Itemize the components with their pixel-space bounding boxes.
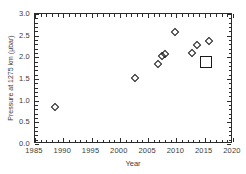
y-minor-tick <box>35 49 38 50</box>
y-minor-tick <box>35 118 38 119</box>
y-minor-tick <box>35 127 38 128</box>
data-layer <box>35 14 231 142</box>
y-minor-tick <box>35 53 38 54</box>
x-minor-tick <box>210 14 211 17</box>
y-tick <box>35 57 39 58</box>
y-tick-label: 2.5 <box>19 30 30 39</box>
x-minor-tick <box>109 14 110 17</box>
x-tick <box>176 14 177 18</box>
x-minor-tick <box>97 140 98 143</box>
x-tick-label: 1990 <box>54 146 72 155</box>
x-minor-tick <box>199 140 200 143</box>
data-point-diamond <box>188 49 196 57</box>
y-tick <box>35 144 39 145</box>
x-minor-tick <box>159 140 160 143</box>
x-minor-tick <box>126 140 127 143</box>
y-minor-tick <box>229 40 232 41</box>
y-minor-tick <box>229 114 232 115</box>
y-minor-tick <box>229 131 232 132</box>
x-minor-tick <box>52 14 53 17</box>
x-minor-tick <box>216 140 217 143</box>
x-minor-tick <box>154 140 155 143</box>
y-minor-tick <box>35 92 38 93</box>
x-minor-tick <box>46 14 47 17</box>
y-minor-tick <box>35 31 38 32</box>
y-tick <box>35 36 39 37</box>
x-minor-tick <box>75 140 76 143</box>
y-tick-label: 1.0 <box>19 95 30 104</box>
x-minor-tick <box>41 140 42 143</box>
y-minor-tick <box>229 140 232 141</box>
x-tick <box>176 138 177 142</box>
y-tick <box>35 122 39 123</box>
data-point-diamond <box>170 28 178 36</box>
x-minor-tick <box>69 14 70 17</box>
y-minor-tick <box>35 88 38 89</box>
x-minor-tick <box>182 14 183 17</box>
y-minor-tick <box>229 23 232 24</box>
x-minor-tick <box>46 140 47 143</box>
x-minor-tick <box>131 14 132 17</box>
x-minor-tick <box>210 140 211 143</box>
x-minor-tick <box>114 140 115 143</box>
x-minor-tick <box>80 14 81 17</box>
x-tick <box>63 138 64 142</box>
y-tick <box>227 57 231 58</box>
y-minor-tick <box>35 83 38 84</box>
x-minor-tick <box>171 14 172 17</box>
x-minor-tick <box>142 14 143 17</box>
y-minor-tick <box>229 109 232 110</box>
y-minor-tick <box>229 66 232 67</box>
data-point-square <box>200 56 212 68</box>
x-minor-tick <box>222 14 223 17</box>
y-minor-tick <box>229 70 232 71</box>
y-minor-tick <box>35 105 38 106</box>
x-minor-tick <box>193 14 194 17</box>
x-minor-tick <box>165 140 166 143</box>
x-tick-label: 1995 <box>82 146 100 155</box>
y-minor-tick <box>35 23 38 24</box>
y-minor-tick <box>229 27 232 28</box>
y-minor-tick <box>35 96 38 97</box>
x-tick <box>148 138 149 142</box>
y-minor-tick <box>35 75 38 76</box>
y-tick-label: 2.0 <box>19 52 30 61</box>
y-minor-tick <box>35 62 38 63</box>
y-minor-tick <box>229 44 232 45</box>
x-tick-label: 2005 <box>138 146 156 155</box>
data-point-diamond <box>193 41 201 49</box>
y-minor-tick <box>35 135 38 136</box>
y-minor-tick <box>35 44 38 45</box>
x-minor-tick <box>103 140 104 143</box>
x-minor-tick <box>137 14 138 17</box>
y-tick <box>227 144 231 145</box>
x-tick-label: 2010 <box>167 146 185 155</box>
y-minor-tick <box>35 27 38 28</box>
y-minor-tick <box>35 18 38 19</box>
x-tick <box>63 14 64 18</box>
y-minor-tick <box>35 70 38 71</box>
x-tick-label: 2015 <box>195 146 213 155</box>
y-minor-tick <box>35 109 38 110</box>
x-minor-tick <box>171 140 172 143</box>
x-tick <box>120 138 121 142</box>
y-tick-label: 3.0 <box>19 9 30 18</box>
y-minor-tick <box>229 118 232 119</box>
plot-area <box>34 13 232 143</box>
y-minor-tick <box>229 127 232 128</box>
x-minor-tick <box>86 14 87 17</box>
x-minor-tick <box>137 140 138 143</box>
x-minor-tick <box>58 140 59 143</box>
x-minor-tick <box>126 14 127 17</box>
x-tick <box>120 14 121 18</box>
y-minor-tick <box>229 83 232 84</box>
x-minor-tick <box>86 140 87 143</box>
y-tick <box>35 14 39 15</box>
y-minor-tick <box>35 114 38 115</box>
y-minor-tick <box>229 53 232 54</box>
data-point-diamond <box>205 37 213 45</box>
y-minor-tick <box>35 40 38 41</box>
y-minor-tick <box>229 18 232 19</box>
data-point-diamond <box>131 73 139 81</box>
x-minor-tick <box>188 14 189 17</box>
